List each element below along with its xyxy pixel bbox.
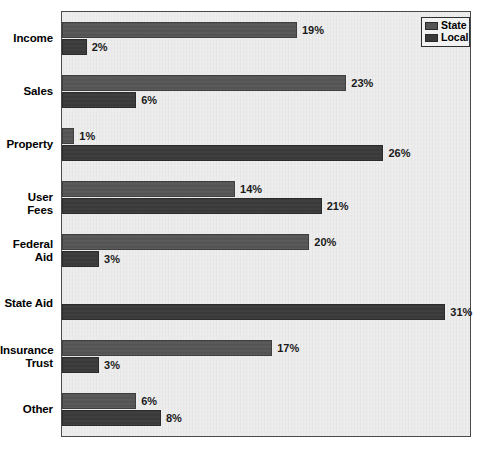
bar-local-other[interactable] [62,410,161,426]
bar-state-sales[interactable] [62,75,346,91]
bar-value-label: 20% [314,234,336,250]
bar-value-label: 31% [450,304,472,320]
category-label-other: Other [0,403,53,416]
bar-value-label: 21% [327,198,349,214]
chart-legend: State Local [421,17,470,47]
bar-state-insurance-trust[interactable] [62,340,272,356]
category-label-sales: Sales [0,85,53,98]
bar-state-user-fees[interactable] [62,181,235,197]
category-label-line: Other [0,403,53,416]
bar-value-label: 6% [141,92,157,108]
category-label-line: Property [0,138,53,151]
category-label-line: Insurance [0,344,53,357]
bar-value-label: 23% [351,75,373,91]
bar-row: 3% [62,357,470,373]
category-label-property: Property [0,138,53,151]
bar-row: 14% [62,181,470,197]
bar-row: 3% [62,251,470,267]
category-label-line: Sales [0,85,53,98]
bar-row: 21% [62,198,470,214]
category-label-income: Income [0,32,53,45]
bar-row: 19% [62,22,470,38]
bar-value-label: 1% [79,128,95,144]
category-label-user-fees: User Fees [0,191,53,217]
bar-state-federal-aid[interactable] [62,234,309,250]
category-label-insurance-trust: InsuranceTrust [0,344,53,370]
bar-row: 1% [62,128,470,144]
category-label-line: Aid [0,251,53,264]
bar-value-label: 17% [277,340,299,356]
bar-state-property[interactable] [62,128,74,144]
category-label-line: Income [0,32,53,45]
bar-value-label: 8% [166,410,182,426]
bar-row: 6% [62,92,470,108]
bar-value-label: 26% [388,145,410,161]
bar-state-other[interactable] [62,393,136,409]
legend-swatch-state-icon [425,22,438,30]
category-label-federal-aid: FederalAid [0,238,53,264]
bar-local-user-fees[interactable] [62,198,322,214]
category-label-state-aid: State Aid [0,297,53,310]
legend-item-local[interactable]: Local [425,32,466,43]
bar-state-income[interactable] [62,22,297,38]
bar-row [62,287,470,303]
legend-label-state: State [441,20,467,31]
bar-local-income[interactable] [62,39,87,55]
bar-value-label: 19% [302,22,324,38]
bar-local-insurance-trust[interactable] [62,357,99,373]
bar-local-federal-aid[interactable] [62,251,99,267]
bar-chart: Income19%2%Sales23%6%Property1%26%User F… [0,0,482,449]
bar-row: 6% [62,393,470,409]
bar-row: 8% [62,410,470,426]
bar-local-sales[interactable] [62,92,136,108]
legend-swatch-local-icon [425,34,438,42]
bar-value-label: 6% [141,393,157,409]
bar-row: 26% [62,145,470,161]
bar-row: 31% [62,304,470,320]
category-label-line: Trust [0,357,53,370]
bar-row: 2% [62,39,470,55]
legend-label-local: Local [441,32,468,43]
bar-row: 20% [62,234,470,250]
category-label-line: User Fees [0,191,53,217]
bar-value-label: 3% [104,251,120,267]
bar-value-label: 3% [104,357,120,373]
chart-title-remnant [0,0,482,5]
bar-value-label: 14% [240,181,262,197]
bar-value-label: 2% [92,39,108,55]
bar-row: 17% [62,340,470,356]
bar-local-state-aid[interactable] [62,304,445,320]
legend-item-state[interactable]: State [425,20,466,31]
bar-local-property[interactable] [62,145,383,161]
category-label-line: Federal [0,238,53,251]
bar-row: 23% [62,75,470,91]
category-label-line: State Aid [0,297,53,310]
